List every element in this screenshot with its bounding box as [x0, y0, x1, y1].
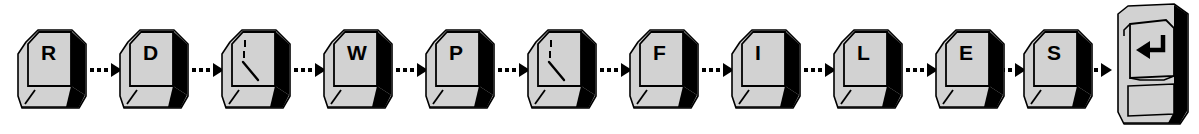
keycap-graphic: W: [320, 0, 400, 134]
keycap-graphic: L: [830, 0, 910, 134]
enter-lower-plate: [1128, 84, 1174, 116]
keycap-letter: W: [347, 41, 367, 64]
arrow-dot-3: [512, 68, 516, 72]
arrow-dot-2: [301, 68, 305, 72]
keycap-graphic: P: [422, 0, 502, 134]
arrow-dot-2: [97, 68, 101, 72]
arrow-dot-2: [913, 68, 917, 72]
arrow-dot-2: [607, 68, 611, 72]
keycap-w-4: W: [320, 0, 400, 134]
keycap-wildcard-3: [218, 0, 298, 134]
keycap-s-11: S: [1020, 0, 1100, 134]
keycap-letter: L: [857, 41, 870, 64]
keycap-graphic: [524, 0, 604, 134]
keycap-enter: [1108, 0, 1198, 134]
arrow-dot-3: [716, 68, 720, 72]
keycap-top-face: [232, 32, 275, 86]
keycap-graphic: S: [1020, 0, 1100, 134]
arrow-dot-2: [505, 68, 509, 72]
keycap-letter: D: [143, 41, 158, 64]
keycap-graphic: R: [14, 0, 94, 134]
keycap-letter: F: [653, 41, 666, 64]
keycap-f-7: F: [626, 0, 706, 134]
keycap-letter: E: [959, 41, 973, 64]
enter-keycap-graphic: [1108, 0, 1198, 134]
keycap-l-9: L: [830, 0, 910, 134]
arrow-dot-2: [709, 68, 713, 72]
arrow-dot-3: [410, 68, 414, 72]
enter-right-face: [1174, 5, 1187, 119]
keycap-letter: I: [755, 41, 761, 64]
keycap-p-5: P: [422, 0, 502, 134]
keycap-d-2: D: [116, 0, 196, 134]
keycap-graphic: E: [932, 0, 1012, 134]
keystroke-diagram: RDWPFILES: [0, 0, 1199, 134]
arrow-dot-3: [308, 68, 312, 72]
keycap-graphic: I: [728, 0, 808, 134]
keycap-letter: R: [41, 41, 56, 64]
keycap-i-8: I: [728, 0, 808, 134]
arrow-dot-3: [206, 68, 210, 72]
keycap-top-face: [742, 32, 785, 86]
arrow-dot-3: [104, 68, 108, 72]
keycap-e-10: E: [932, 0, 1012, 134]
arrow-dot-2: [403, 68, 407, 72]
keycap-graphic: F: [626, 0, 706, 134]
keycap-top-face: [538, 32, 581, 86]
arrow-dot-2: [811, 68, 815, 72]
arrow-dot-3: [614, 68, 618, 72]
keycap-graphic: [218, 0, 298, 134]
keycap-letter: S: [1047, 41, 1061, 64]
keycap-letter: P: [449, 41, 463, 64]
keycap-r-1: R: [14, 0, 94, 134]
arrow-dot-2: [199, 68, 203, 72]
keycap-wildcard-6: [524, 0, 604, 134]
arrow-dot-3: [920, 68, 924, 72]
arrow-dot-3: [818, 68, 822, 72]
keycap-graphic: D: [116, 0, 196, 134]
